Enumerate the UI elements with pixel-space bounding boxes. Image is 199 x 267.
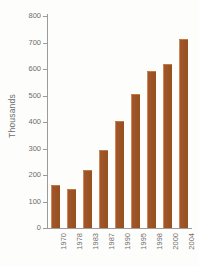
y-axis-tick-label: 400 [28,117,41,126]
bar-chart: Thousands 0100200300400500600700800 1970… [0,0,199,267]
bar-slot [112,16,128,228]
bar-slot [160,16,176,228]
bar-slot [96,16,112,228]
x-axis-tick-label: 2004 [188,233,196,250]
bar-slot [64,16,80,228]
x-axis-tick: 1987 [96,231,112,267]
x-axis-tick: 2000 [160,231,176,267]
y-axis-tick-label: 100 [28,197,41,206]
bar-slot [80,16,96,228]
x-axis-tick: 1998 [144,231,160,267]
y-axis-title-label: Thousands [7,94,17,138]
x-axis-tick: 1990 [112,231,128,267]
bar-1983[interactable] [83,170,92,228]
x-axis-line [47,228,192,229]
y-axis-tick-label: 0 [37,223,41,232]
x-axis-tick: 1978 [64,231,80,267]
x-axis-tick: 1995 [128,231,144,267]
y-axis: 0100200300400500600700800 [20,16,47,228]
plot-area [48,16,192,228]
y-axis-tick-label: 300 [28,144,41,153]
bar-1987[interactable] [99,150,108,228]
bar-slot [128,16,144,228]
bar-slot [144,16,160,228]
y-axis-tick-label: 200 [28,170,41,179]
x-axis-tick: 1983 [80,231,96,267]
bar-1998[interactable] [147,71,156,228]
x-axis-tick: 2004 [176,231,192,267]
y-axis-tick-label: 600 [28,64,41,73]
y-axis-tick-label: 800 [28,11,41,20]
bar-1990[interactable] [115,121,124,228]
bar-slot [176,16,192,228]
bar-1970[interactable] [51,185,60,228]
bar-slot [48,16,64,228]
x-axis: 197019781983198719901995199820002004 [48,231,192,267]
bar-1978[interactable] [67,189,76,228]
bar-2004[interactable] [179,39,188,228]
y-axis-tick-label: 500 [28,91,41,100]
bar-2000[interactable] [163,64,172,228]
bar-1995[interactable] [131,94,140,228]
y-axis-tick-label: 700 [28,38,41,47]
y-axis-title: Thousands [4,0,20,232]
x-axis-tick: 1970 [48,231,64,267]
